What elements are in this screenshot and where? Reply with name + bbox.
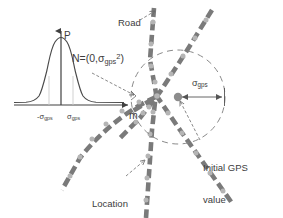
location-point-label-line1: Location <box>92 199 128 210</box>
initial-gps-point <box>174 93 182 101</box>
location-point <box>194 151 199 156</box>
plot-tick-label-pos-sigma: σgps <box>67 113 80 122</box>
location-point <box>120 109 125 114</box>
leader-normal-bracket <box>131 91 136 100</box>
normal-subscript: gps <box>104 57 116 66</box>
location-point-label: Location point <box>92 178 128 218</box>
location-point <box>151 110 156 115</box>
sigma-subscript: gps <box>198 81 208 88</box>
leader-normal-dist <box>92 73 134 95</box>
leader-location-point <box>126 160 145 176</box>
location-point <box>147 105 152 110</box>
location-point <box>104 122 109 127</box>
location-point <box>137 100 142 105</box>
gaussian-plot <box>14 31 128 105</box>
location-point <box>144 198 149 203</box>
location-point <box>204 18 209 23</box>
pos-sigma-subscript: gps <box>72 115 80 121</box>
location-point <box>78 155 83 160</box>
location-point <box>141 111 146 116</box>
location-point <box>145 176 150 181</box>
location-point <box>193 36 198 41</box>
location-point <box>149 42 154 47</box>
initial-gps-value-label: Initial GPS value <box>203 142 248 218</box>
location-point <box>181 54 186 59</box>
sigma-radius-dimension <box>182 88 225 106</box>
initial-gps-value-line2: value <box>203 195 248 206</box>
location-point <box>169 72 174 77</box>
location-point <box>153 80 158 85</box>
road-label: Road <box>118 18 141 29</box>
location-point <box>151 20 156 25</box>
initial-gps-value-line1: Initial GPS <box>203 163 248 174</box>
plot-x-axis-label: m <box>129 110 138 122</box>
gaussian-curve <box>14 38 124 103</box>
plot-tick-label-neg-sigma: -σgps <box>37 113 53 122</box>
plot-y-axis-label: P <box>64 30 71 41</box>
normal-distribution-label: N=(0,σgps2) <box>72 53 124 66</box>
location-point <box>146 154 151 159</box>
sigma-gps-radius-label: σgps <box>192 78 208 88</box>
leader-lines <box>92 11 200 176</box>
normal-prefix: N=(0, <box>72 52 98 64</box>
location-point <box>90 137 95 142</box>
location-point <box>166 111 171 116</box>
normal-suffix: ) <box>121 52 125 64</box>
location-point <box>180 131 185 136</box>
location-point <box>149 64 154 69</box>
location-points <box>68 18 226 203</box>
location-point <box>154 93 160 99</box>
neg-sigma-subscript: gps <box>44 115 52 121</box>
gps-road-diagram: Road Location point Initial GPS value σg… <box>0 0 283 218</box>
location-point <box>68 174 73 179</box>
